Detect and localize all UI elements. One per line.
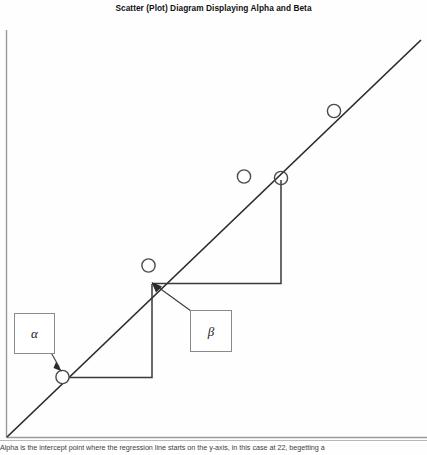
data-point-marker <box>327 104 340 117</box>
scatter-plot-canvas <box>0 0 427 455</box>
scatter-diagram-page: Scatter (Plot) Diagram Displaying Alpha … <box>0 0 427 455</box>
divider <box>0 440 427 441</box>
beta-callout-label: β <box>208 325 214 338</box>
alpha-callout: α <box>14 313 55 354</box>
data-point-marker <box>56 370 69 383</box>
upper-rise-run-triangle <box>152 180 281 284</box>
alpha-callout-label: α <box>31 327 38 340</box>
data-point-marker <box>237 170 250 183</box>
beta-callout: β <box>190 310 232 352</box>
lower-rise-run-triangle <box>63 284 152 378</box>
figure-caption: Alpha is the intercept point where the r… <box>0 443 427 452</box>
data-point-marker <box>142 259 155 272</box>
data-point-marker <box>274 171 287 184</box>
